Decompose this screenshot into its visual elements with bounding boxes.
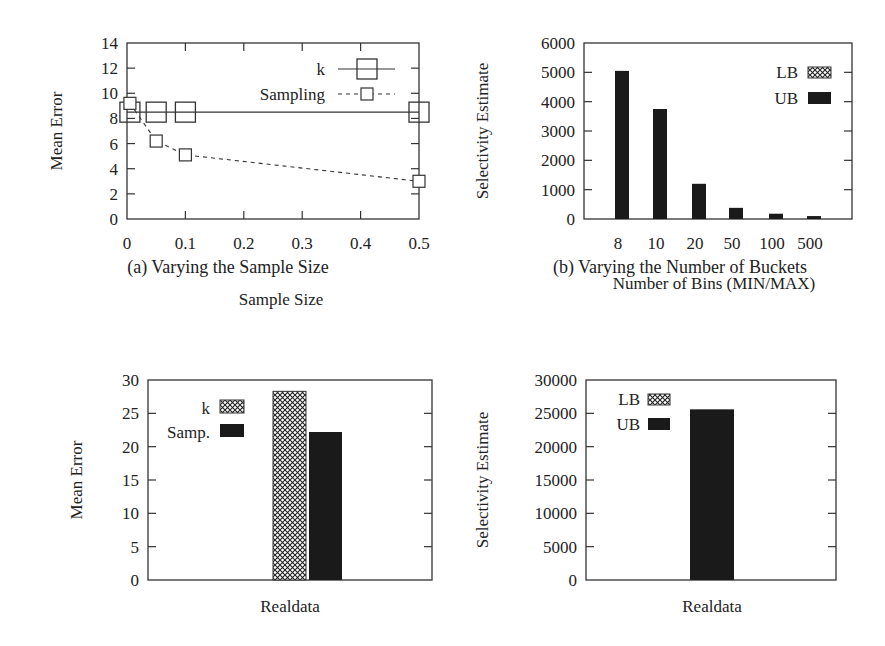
series-sampling-marker	[413, 175, 425, 187]
y-axis-label: Mean Error	[47, 91, 66, 170]
y-tick-label: 25	[122, 404, 139, 423]
y-tick-label: 0	[110, 210, 119, 229]
legend-swatch-k	[220, 400, 244, 413]
legend-label-lb: LB	[618, 390, 640, 409]
y-tick-label: 15	[122, 471, 139, 490]
y-tick-label: 0	[131, 571, 140, 590]
bar-ub-10	[653, 109, 667, 219]
y-tick-label: 20	[122, 438, 139, 457]
x-tick-label: 0.1	[175, 234, 196, 253]
legend-label-k: k	[317, 60, 326, 79]
y-axis-label: Mean Error	[67, 440, 86, 519]
x-tick-label: 0.5	[408, 234, 429, 253]
legend-swatch-lb	[648, 394, 670, 405]
x-tick-label: 50	[724, 234, 741, 253]
y-axis-label: Selectivity Estimate	[473, 63, 492, 199]
y-tick-label: 1000	[541, 181, 575, 200]
y-tick-label: 8	[110, 109, 119, 128]
bar-ub-20	[692, 184, 706, 219]
y-tick-label: 14	[101, 34, 119, 53]
bar-samp	[309, 432, 342, 580]
bar-ub	[690, 409, 734, 580]
legend-swatch-lb	[808, 67, 831, 78]
y-tick-label: 10000	[535, 504, 578, 523]
y-tick-label: 6000	[541, 34, 575, 53]
y-tick-label: 2000	[541, 151, 575, 170]
y-tick-label: 20000	[535, 438, 578, 457]
y-tick-label: 2	[110, 185, 119, 204]
chart-b-number-of-bins: 0100020003000400050006000Selectivity Est…	[473, 34, 852, 293]
x-tick-label: 0.3	[292, 234, 313, 253]
legend-label-ub: UB	[616, 415, 640, 434]
caption-b: (b) Varying the Number of Buckets	[553, 257, 807, 278]
x-axis-label: Sample Size	[239, 290, 324, 309]
y-tick-label: 5000	[543, 538, 577, 557]
y-tick-label: 4	[110, 160, 119, 179]
y-tick-label: 30	[122, 371, 139, 390]
bar-ub-50	[729, 208, 743, 219]
chart-d-realdata-selectivity: 050001000015000200002500030000Selectivit…	[473, 371, 836, 616]
x-axis-label: Realdata	[682, 597, 742, 616]
legend-label-ub: UB	[774, 89, 798, 108]
y-tick-label: 6	[110, 135, 119, 154]
y-tick-label: 30000	[535, 371, 578, 390]
y-tick-label: 0	[567, 210, 576, 229]
x-tick-label: 0.4	[350, 234, 372, 253]
legend-label-k: k	[202, 399, 211, 418]
series-sampling-marker	[150, 135, 162, 147]
series-sampling-line	[130, 103, 419, 181]
x-tick-label: 500	[797, 234, 823, 253]
legend-label-lb: LB	[776, 63, 798, 82]
y-tick-label: 12	[101, 59, 118, 78]
x-tick-label: 8	[614, 234, 623, 253]
x-tick-label: 100	[759, 234, 785, 253]
x-tick-label: 0	[123, 234, 132, 253]
y-tick-label: 25000	[535, 404, 578, 423]
y-axis-label: Selectivity Estimate	[473, 412, 492, 548]
x-tick-label: 20	[687, 234, 704, 253]
bar-ub-500	[807, 216, 821, 219]
legend-swatch-samp	[220, 424, 244, 437]
series-sampling-marker	[124, 97, 136, 109]
y-tick-label: 15000	[535, 471, 578, 490]
y-tick-label: 5000	[541, 63, 575, 82]
chart-c-realdata-mean-error: 051015202530Mean ErrorRealdatakSamp.	[67, 371, 432, 616]
legend-swatch-ub	[808, 92, 831, 104]
x-tick-label: 10	[648, 234, 665, 253]
x-tick-label: 0.2	[233, 234, 254, 253]
bar-ub-8	[615, 71, 629, 219]
y-tick-label: 4000	[541, 93, 575, 112]
y-tick-label: 5	[131, 538, 140, 557]
caption-a: (a) Varying the Sample Size	[127, 257, 329, 278]
legend-swatch-ub	[648, 418, 670, 430]
legend-marker-sampling	[361, 88, 373, 100]
bar-ub-100	[769, 214, 783, 219]
series-sampling-marker	[179, 149, 191, 161]
bar-k	[273, 391, 306, 580]
y-tick-label: 3000	[541, 122, 575, 141]
y-tick-label: 10	[101, 84, 118, 103]
x-axis-label: Realdata	[260, 597, 320, 616]
figure: 0246810121400.10.20.30.40.5Sample SizeMe…	[0, 0, 885, 646]
y-tick-label: 10	[122, 504, 139, 523]
legend-label-sampling: Sampling	[260, 85, 326, 104]
y-tick-label: 0	[569, 571, 578, 590]
legend-label-samp: Samp.	[167, 423, 210, 442]
